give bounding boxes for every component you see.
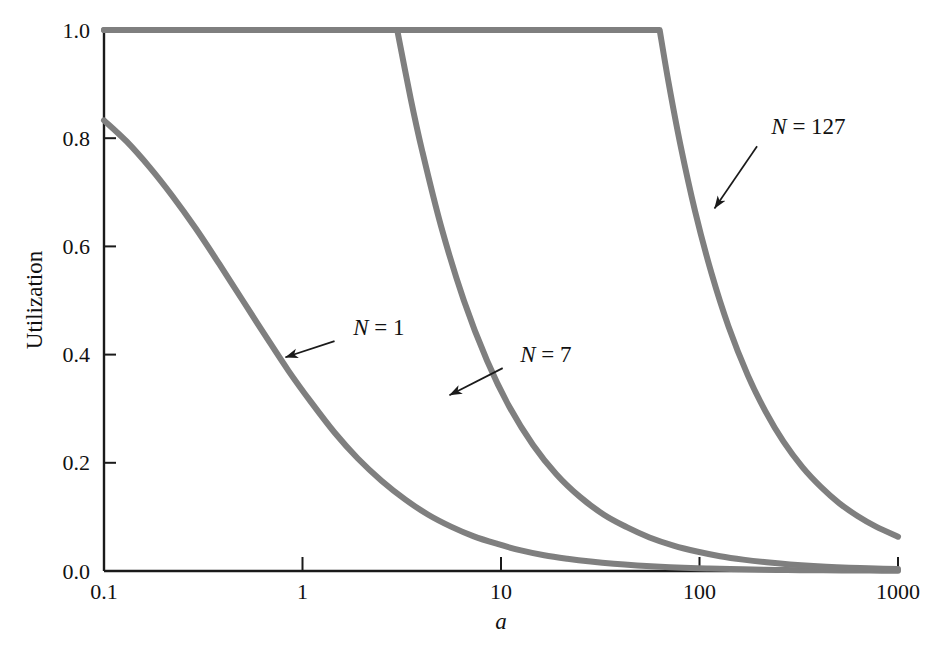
arrow-to-n-127 <box>714 146 757 208</box>
utilization-vs-a-chart: 0.00.20.40.60.81.0 0.11101001000 N = 1N … <box>0 0 938 653</box>
curve-n-7 <box>104 30 898 569</box>
y-tick-label: 0.8 <box>63 126 91 151</box>
x-tick-label: 100 <box>683 579 716 604</box>
y-axis-title: Utilization <box>22 250 47 349</box>
x-tick-label: 10 <box>490 579 512 604</box>
y-tick-label: 0.2 <box>63 450 91 475</box>
arrow-to-n-1 <box>285 341 334 357</box>
axis-lines <box>104 30 898 571</box>
data-curves <box>104 30 898 571</box>
chart-figure: 0.00.20.40.60.81.0 0.11101001000 N = 1N … <box>0 0 938 653</box>
x-axis-title: a <box>495 609 507 634</box>
y-tick-label: 0.0 <box>63 559 91 584</box>
series-label-n-1: N = 1 <box>352 315 404 340</box>
x-tick-label: 1 <box>297 579 308 604</box>
y-tick-label: 0.4 <box>63 342 91 367</box>
curve-n-1 <box>104 120 898 570</box>
curve-n-127 <box>104 30 898 537</box>
y-tick-label: 1.0 <box>63 18 91 43</box>
y-axis-ticks: 0.00.20.40.60.81.0 <box>63 18 117 584</box>
y-tick-label: 0.6 <box>63 234 91 259</box>
x-tick-label: 0.1 <box>90 579 118 604</box>
series-annotations: N = 1N = 7N = 127 <box>352 114 845 366</box>
series-label-n-127: N = 127 <box>770 114 845 139</box>
series-label-n-7: N = 7 <box>519 342 571 367</box>
x-tick-label: 1000 <box>876 579 920 604</box>
